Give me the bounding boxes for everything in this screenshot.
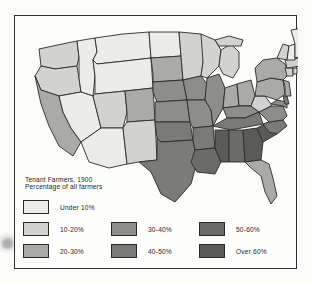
legend-row-1: Under 10% xyxy=(23,196,291,218)
legend-swatch-10-20 xyxy=(23,222,49,236)
legend-item-over-60[interactable]: Over 60% xyxy=(199,244,287,258)
legend-swatch-50-60 xyxy=(199,222,225,236)
legend-item-10-20[interactable]: 10-20% xyxy=(23,222,111,236)
scan-smudge-blob xyxy=(2,238,13,249)
legend-label-40-50: 40-50% xyxy=(148,248,172,255)
legend-swatch-30-40 xyxy=(111,222,137,236)
choropleth-map: Tenant Farmers, 1900 Percentage of all f… xyxy=(15,16,296,268)
state-south-dakota xyxy=(151,56,183,82)
state-colorado xyxy=(125,88,155,122)
legend-label-over-60: Over 60% xyxy=(236,248,267,255)
state-indiana xyxy=(223,84,239,108)
state-new-mexico xyxy=(123,120,157,164)
state-nebraska xyxy=(153,80,187,102)
legend-label-20-30: 20-30% xyxy=(60,248,84,255)
legend-label-30-40: 30-40% xyxy=(148,226,172,233)
state-north-dakota xyxy=(149,32,181,58)
legend-swatch-under-10 xyxy=(23,200,49,214)
legend-label-50-60: 50-60% xyxy=(236,226,260,233)
legend-item-50-60[interactable]: 50-60% xyxy=(199,222,287,236)
map-legend: Tenant Farmers, 1900 Percentage of all f… xyxy=(23,176,291,262)
legend-item-under-10[interactable]: Under 10% xyxy=(23,200,111,214)
legend-row-2: 10-20% 30-40% 50-60% xyxy=(23,218,291,240)
legend-item-40-50[interactable]: 40-50% xyxy=(111,244,199,258)
legend-swatch-20-30 xyxy=(23,244,49,258)
legend-title: Tenant Farmers, 1900 Percentage of all f… xyxy=(25,176,291,191)
legend-item-30-40[interactable]: 30-40% xyxy=(111,222,199,236)
state-new-york xyxy=(255,58,289,82)
legend-item-20-30[interactable]: 20-30% xyxy=(23,244,111,258)
state-michigan-upper xyxy=(215,36,243,46)
state-kansas xyxy=(155,100,190,122)
map-figure-frame: Tenant Farmers, 1900 Percentage of all f… xyxy=(14,15,297,269)
state-washington xyxy=(39,41,79,69)
legend-swatch-over-60 xyxy=(199,244,225,258)
state-iowa xyxy=(183,76,207,100)
legend-label-under-10: Under 10% xyxy=(60,204,95,211)
state-alabama xyxy=(229,130,245,162)
state-michigan-lower xyxy=(219,44,239,78)
state-oklahoma xyxy=(155,122,193,142)
legend-row-3: 20-30% 40-50% Over 60% xyxy=(23,240,291,262)
state-arkansas xyxy=(193,126,215,150)
legend-label-10-20: 10-20% xyxy=(60,226,84,233)
legend-swatch-40-50 xyxy=(111,244,137,258)
state-rhode-island xyxy=(293,68,297,74)
